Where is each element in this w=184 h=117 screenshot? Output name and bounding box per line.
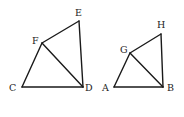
figure-right: ABHG (101, 19, 174, 93)
vertex-label-B: B (167, 82, 174, 93)
vertex-label-E: E (75, 7, 82, 18)
segment-DE (79, 21, 83, 87)
vertex-label-A: A (101, 82, 109, 93)
segment-GA (114, 53, 130, 87)
geometry-diagram: CDEF ABHG (0, 0, 184, 117)
segment-FD (42, 43, 83, 87)
vertex-label-G: G (120, 44, 128, 55)
segment-HG (130, 34, 161, 53)
figure-left: CDEF (9, 7, 93, 93)
segment-EF (42, 21, 79, 43)
segment-GB (130, 53, 163, 87)
vertex-label-D: D (85, 82, 93, 93)
vertex-label-C: C (9, 82, 16, 93)
segment-BH (161, 34, 163, 87)
vertex-label-H: H (157, 19, 165, 30)
vertex-label-F: F (32, 35, 39, 46)
segment-FC (22, 43, 42, 87)
